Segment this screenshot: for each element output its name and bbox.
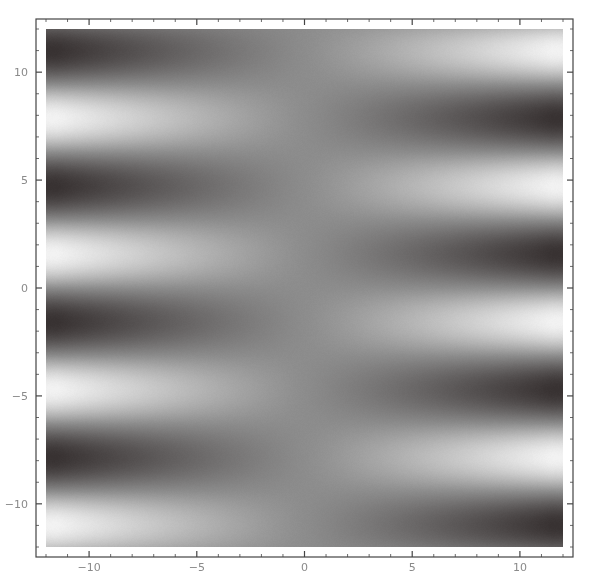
y-tick-label: 0 <box>21 283 28 294</box>
frame-border <box>36 19 573 557</box>
x-tick-label: 10 <box>513 562 527 573</box>
y-tick-label: 10 <box>14 67 28 78</box>
x-tick-label: 0 <box>301 562 308 573</box>
x-tick-label: −10 <box>77 562 100 573</box>
plot-frame <box>0 0 591 580</box>
y-tick-label: −5 <box>12 390 28 401</box>
y-tick-label: 5 <box>21 175 28 186</box>
x-tick-label: −5 <box>189 562 205 573</box>
y-tick-label: −10 <box>5 498 28 509</box>
x-tick-label: 5 <box>409 562 416 573</box>
